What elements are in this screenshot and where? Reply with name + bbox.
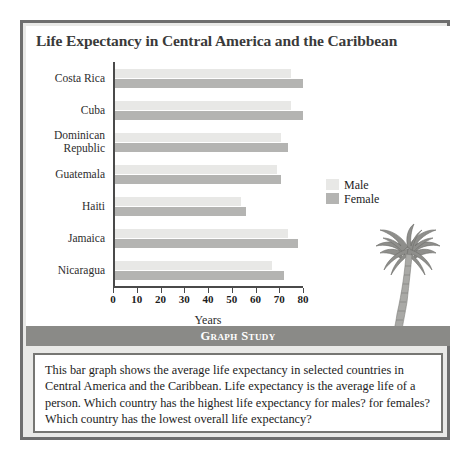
tick-label: 80 — [291, 293, 315, 305]
bar-female — [115, 79, 303, 88]
chart-legend: Male Female — [326, 178, 416, 206]
legend-swatch-male-icon — [326, 179, 339, 190]
legend-swatch-female-icon — [326, 193, 339, 204]
category-label: Costa Rica — [26, 72, 111, 85]
category-label: DominicanRepublic — [26, 129, 111, 154]
bar-male — [115, 69, 291, 78]
category-axis-labels: Costa RicaCubaDominicanRepublicGuatemala… — [26, 62, 111, 286]
bars-layer — [115, 62, 335, 286]
tick-label: 10 — [125, 293, 149, 305]
legend-item-female: Female — [326, 192, 416, 206]
category-label: Haiti — [26, 200, 111, 213]
bar-female — [115, 111, 303, 120]
page-root: Life Expectancy in Central America and t… — [0, 0, 470, 462]
chart-panel: Life Expectancy in Central America and t… — [26, 26, 450, 326]
tick-label: 20 — [149, 293, 173, 305]
tick-label: 0 — [101, 293, 125, 305]
bar-female — [115, 271, 284, 280]
category-label: Jamaica — [26, 232, 111, 245]
chart-title: Life Expectancy in Central America and t… — [36, 32, 440, 50]
legend-label-female: Female — [344, 192, 379, 207]
palm-tree-icon — [364, 222, 452, 330]
bar-male — [115, 165, 277, 174]
graph-study-body: This bar graph shows the average life ex… — [33, 353, 443, 433]
bar-female — [115, 143, 288, 152]
graph-study-text: This bar graph shows the average life ex… — [45, 362, 431, 428]
category-label: Cuba — [26, 104, 111, 117]
bar-female — [115, 175, 281, 184]
tick-label: 40 — [196, 293, 220, 305]
legend-label-male: Male — [344, 178, 369, 193]
figure-frame: Life Expectancy in Central America and t… — [20, 20, 450, 440]
bar-male — [115, 101, 291, 110]
category-label: Nicaragua — [26, 264, 111, 277]
graph-study-banner-label: Graph Study — [200, 329, 275, 344]
tick-label: 70 — [267, 293, 291, 305]
category-label: Guatemala — [26, 168, 111, 181]
bar-male — [115, 197, 241, 206]
tick-label: 60 — [244, 293, 268, 305]
tick-label: 30 — [172, 293, 196, 305]
graph-study-banner: Graph Study — [26, 326, 450, 346]
bar-female — [115, 239, 298, 248]
legend-item-male: Male — [326, 178, 416, 192]
bar-male — [115, 229, 288, 238]
bar-female — [115, 207, 246, 216]
tick-label: 50 — [220, 293, 244, 305]
bar-male — [115, 261, 272, 270]
bar-male — [115, 133, 281, 142]
